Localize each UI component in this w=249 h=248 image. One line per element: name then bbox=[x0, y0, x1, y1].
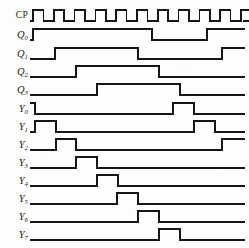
signal-label-y4: Y4 bbox=[19, 176, 28, 187]
waveform-y7 bbox=[31, 229, 244, 240]
signal-label-y5: Y5 bbox=[19, 194, 28, 205]
waveform-q3 bbox=[31, 84, 244, 95]
signal-label-subscript: 1 bbox=[25, 53, 28, 60]
waveform-q1 bbox=[31, 48, 244, 59]
signal-label-text: Y bbox=[19, 211, 25, 222]
signal-label-subscript: 0 bbox=[25, 34, 28, 41]
signal-label-cp: CP bbox=[16, 11, 28, 21]
waveform-canvas bbox=[0, 0, 249, 248]
signal-label-subscript: 2 bbox=[25, 71, 28, 78]
signal-label-text: Y bbox=[19, 121, 25, 132]
signal-label-text: Y bbox=[19, 103, 25, 114]
signal-label-text: Q bbox=[17, 48, 25, 59]
waveform-cp bbox=[31, 10, 249, 21]
signal-label-subscript: 3 bbox=[25, 162, 28, 169]
signal-label-subscript: 0 bbox=[25, 108, 28, 115]
signal-label-subscript: 6 bbox=[25, 216, 28, 223]
timing-diagram: CPQ0Q1Q2Q3Y0Y1Y2Y3Y4Y5Y6Y7 bbox=[0, 0, 249, 248]
signal-label-y3: Y3 bbox=[19, 158, 28, 169]
waveform-y5 bbox=[31, 193, 244, 204]
signal-label-q3: Q3 bbox=[17, 85, 28, 96]
waveform-y3 bbox=[31, 157, 244, 168]
signal-label-text: Y bbox=[19, 139, 25, 150]
signal-label-subscript: 7 bbox=[25, 234, 28, 241]
signal-label-q2: Q2 bbox=[17, 67, 28, 78]
signal-label-q0: Q0 bbox=[17, 30, 28, 41]
signal-label-subscript: 1 bbox=[25, 126, 28, 133]
waveform-y1 bbox=[31, 121, 244, 132]
signal-label-text: Q bbox=[17, 29, 25, 40]
signal-label-y6: Y6 bbox=[19, 212, 28, 223]
signal-label-text: Y bbox=[19, 157, 25, 168]
signal-label-subscript: 4 bbox=[25, 180, 28, 187]
waveform-q0 bbox=[31, 29, 244, 40]
signal-label-subscript: 2 bbox=[25, 144, 28, 151]
signal-label-y0: Y0 bbox=[19, 104, 28, 115]
signal-label-text: Y bbox=[19, 229, 25, 240]
waveform-y2 bbox=[31, 139, 244, 150]
signal-label-text: CP bbox=[16, 10, 28, 20]
signal-label-y7: Y7 bbox=[19, 230, 28, 241]
signal-label-text: Q bbox=[17, 84, 25, 95]
signal-label-q1: Q1 bbox=[17, 49, 28, 60]
signal-label-subscript: 3 bbox=[25, 89, 28, 96]
signal-label-y1: Y1 bbox=[19, 122, 28, 133]
signal-label-text: Y bbox=[19, 175, 25, 186]
signal-label-y2: Y2 bbox=[19, 140, 28, 151]
waveform-y0 bbox=[31, 103, 244, 114]
signal-label-text: Q bbox=[17, 66, 25, 77]
waveform-y6 bbox=[31, 211, 244, 222]
waveform-y4 bbox=[31, 175, 244, 186]
waveform-q2 bbox=[31, 66, 244, 77]
signal-label-text: Y bbox=[19, 193, 25, 204]
signal-label-subscript: 5 bbox=[25, 198, 28, 205]
